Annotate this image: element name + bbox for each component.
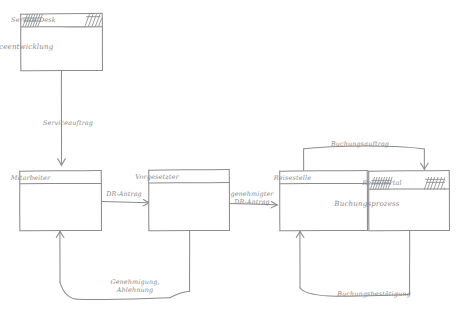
node-title-mitarbeiter: Mitarbeiter [1,174,61,183]
node-title-vorgesetzter: Vorgesetzter [125,173,189,182]
diagram-canvas: Service Desk Serviceentwicklung Mitarbei… [0,0,469,322]
edge-buchungsbestaetigung[interactable] [296,231,409,296]
edge-label-genehmigung-ablehnung: Genehmigung, Ablehnung [110,278,159,295]
node-body-service-desk: Serviceentwicklung [0,42,62,51]
node-title-service-desk: Service Desk [6,16,62,25]
edge-buchungsauftrag[interactable] [304,146,429,170]
edge-label-line-1: Genehmigung, [110,278,159,286]
edge-label-line-2: Ablehnung [110,286,159,294]
edge-label-genehmigter-dr-antrag: genehmigter DR-Antrag [230,190,273,207]
edge-label-dr-antrag: DR-Antrag [106,190,142,198]
edge-label-serviceauftrag: Serviceauftrag [43,119,93,127]
edge-label-buchungsauftrag: Buchungsauftrag [331,140,389,148]
node-title-reiseportal: Reiseportal [355,179,409,188]
edge-dr-antrag[interactable] [102,200,150,206]
node-title-reisestelle: Reisestelle [262,174,324,183]
edge-label-line-2: DR-Antrag [230,198,273,206]
edge-label-line-1: genehmigter [230,190,273,198]
diagram-vector-layer [0,0,469,322]
edge-label-buchungsbestaetigung: Buchungsbestätigung [337,290,411,298]
node-body-reiseportal: Buchungsprozess [325,199,409,208]
